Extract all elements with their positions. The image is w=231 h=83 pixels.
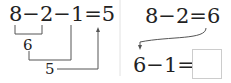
right-expression-2: 6−1= bbox=[133, 55, 195, 76]
step1-result: 6 bbox=[23, 38, 33, 53]
answer-box[interactable] bbox=[192, 49, 222, 79]
right-expression-1: 8−2=6 bbox=[145, 6, 220, 27]
step2-result: 5 bbox=[45, 62, 55, 77]
left-expression: 8−2−1=5 bbox=[9, 4, 115, 25]
